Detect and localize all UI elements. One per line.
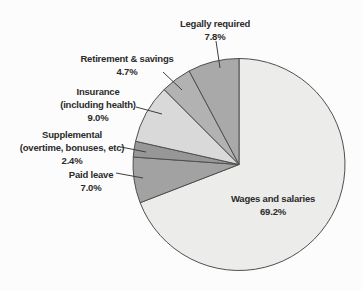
pie-svg: [0, 0, 362, 290]
pie-chart-figure: Wages and salaries69.2%Paid leave7.0%Sup…: [0, 0, 362, 290]
